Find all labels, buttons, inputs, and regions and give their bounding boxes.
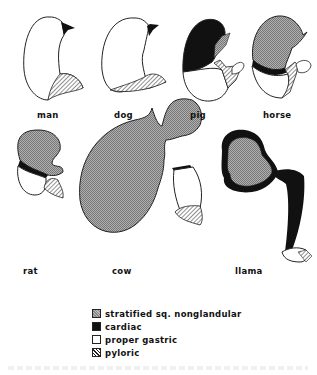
legend-item-proper: proper gastric [92,333,242,346]
legend-label: proper gastric [105,335,177,345]
legend-item-stratified: stratified sq. nonglandular [92,307,242,320]
legend-item-cardiac: cardiac [92,320,242,333]
stomach-cow [80,99,203,232]
legend: stratified sq. nonglandular cardiac prop… [92,307,242,359]
legend-item-pyloric: pyloric [92,346,242,359]
stomach-dog [102,18,166,92]
stomach-man [24,17,83,100]
label-man: man [37,110,59,120]
label-rat: rat [23,266,38,276]
stomach-pig [183,19,244,101]
label-pig: pig [190,110,206,120]
stomach-horse [252,16,311,98]
white-swatch-icon [92,335,101,344]
hatch-swatch-icon [92,348,101,357]
stomach-llama [222,130,313,262]
legend-label: cardiac [105,322,142,332]
label-cow: cow [112,266,132,276]
label-llama: llama [235,266,263,276]
faded-caption-line [8,366,308,370]
crosshatch-swatch-icon [92,309,101,318]
legend-label: stratified sq. nonglandular [105,309,242,319]
label-horse: horse [263,110,291,120]
legend-label: pyloric [105,348,140,358]
stomach-rat [18,130,64,198]
label-dog: dog [114,110,133,120]
solid-black-swatch-icon [92,322,101,331]
